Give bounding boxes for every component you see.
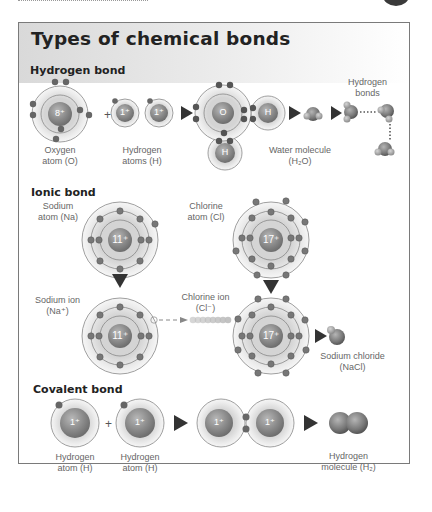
arrow-icon bbox=[304, 415, 318, 431]
arrow-down-icon bbox=[263, 280, 279, 294]
caption-hydrogen-atom-b: Hydrogen atom (H) bbox=[115, 452, 165, 474]
caption-hydrogen-molecule: Hydrogen molecule (H₂) bbox=[316, 451, 381, 473]
nucleus-label-chlorine-ion: 17⁺ bbox=[256, 330, 286, 341]
nucleus-label-h2: 1⁺ bbox=[149, 107, 169, 118]
ionic-bond-section bbox=[82, 198, 345, 376]
caption-sodium-atom: Sodium atom (Na) bbox=[33, 201, 83, 223]
nucleus-label-cov-h1: 1⁺ bbox=[65, 417, 85, 428]
arrow-icon bbox=[289, 106, 301, 120]
nucleus-label-cov-h2: 1⁺ bbox=[130, 417, 150, 428]
nucleus-label-sodium-ion: 11⁺ bbox=[105, 330, 135, 341]
caption-sodium-ion: Sodium ion (Na⁺) bbox=[30, 295, 85, 317]
nucleus-label-cov-h4: 1⁺ bbox=[260, 417, 280, 428]
plus-operator: + bbox=[105, 417, 112, 431]
water-ball-model bbox=[304, 107, 323, 121]
caption-sodium-chloride: Sodium chloride (NaCl) bbox=[315, 351, 390, 373]
plus-operator: + bbox=[104, 108, 111, 122]
nucleus-label-oxygen: 8⁺ bbox=[50, 108, 70, 119]
electron-trail bbox=[190, 317, 232, 324]
nucleus-label-h-bottom: H bbox=[215, 147, 235, 158]
heading-hydrogen-bond: Hydrogen bond bbox=[30, 64, 125, 77]
caption-hydrogen-bonds: Hydrogen bonds bbox=[345, 77, 390, 99]
nucleus-label-o: O bbox=[213, 107, 233, 118]
hydrogen-molecule-model bbox=[329, 412, 368, 434]
heading-covalent-bond: Covalent bond bbox=[33, 383, 123, 396]
nucleus-label-sodium: 11⁺ bbox=[105, 234, 135, 245]
nucleus-label-cov-h3: 1⁺ bbox=[209, 417, 229, 428]
caption-hydrogen-atom-a: Hydrogen atom (H) bbox=[50, 452, 100, 474]
nucleus-label-h1: 1⁺ bbox=[115, 107, 135, 118]
sodium-chloride-model bbox=[327, 326, 345, 345]
arrow-icon bbox=[174, 415, 188, 431]
caption-oxygen-atom: Oxygen atom (O) bbox=[35, 145, 85, 167]
arrow-down-icon bbox=[112, 274, 128, 288]
caption-chlorine-ion: Chlorine ion (Cl⁻) bbox=[178, 292, 233, 314]
caption-water-molecule: Water molecule (H₂O) bbox=[265, 145, 335, 167]
hydrogen-bonded-water bbox=[344, 102, 395, 157]
arrow-icon bbox=[181, 106, 193, 120]
nucleus-label-h-right: H bbox=[258, 107, 278, 118]
arrow-icon bbox=[331, 106, 342, 120]
nucleus-label-chlorine: 17⁺ bbox=[256, 234, 286, 245]
arrow-icon bbox=[315, 329, 327, 343]
caption-hydrogen-atoms: Hydrogen atoms (H) bbox=[117, 145, 167, 167]
heading-ionic-bond: Ionic bond bbox=[31, 186, 96, 199]
caption-chlorine-atom: Chlorine atom (Cl) bbox=[181, 201, 231, 223]
transfer-arrow-icon bbox=[180, 317, 188, 323]
